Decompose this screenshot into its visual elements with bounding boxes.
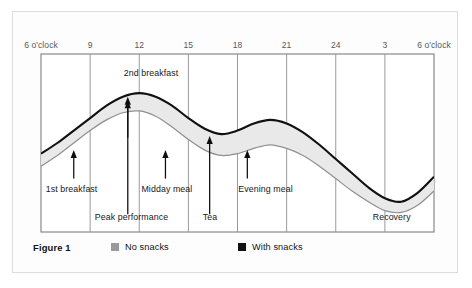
chart-canvas	[13, 12, 459, 274]
legend-item-no-snacks: No snacks	[111, 242, 169, 252]
square-swatch-icon	[111, 243, 119, 251]
legend-label: No snacks	[125, 242, 169, 252]
figure-caption: Figure 1	[33, 242, 71, 253]
figure-card: 6 o'clock9121518212436 o'clock 1st break…	[12, 11, 458, 273]
figure-root: 6 o'clock9121518212436 o'clock 1st break…	[0, 0, 472, 288]
legend-item-with-snacks: With snacks	[238, 242, 303, 252]
chart-legend: Figure 1 No snacks With snacks	[13, 242, 459, 260]
legend-label: With snacks	[252, 242, 303, 252]
square-swatch-icon	[238, 243, 246, 251]
